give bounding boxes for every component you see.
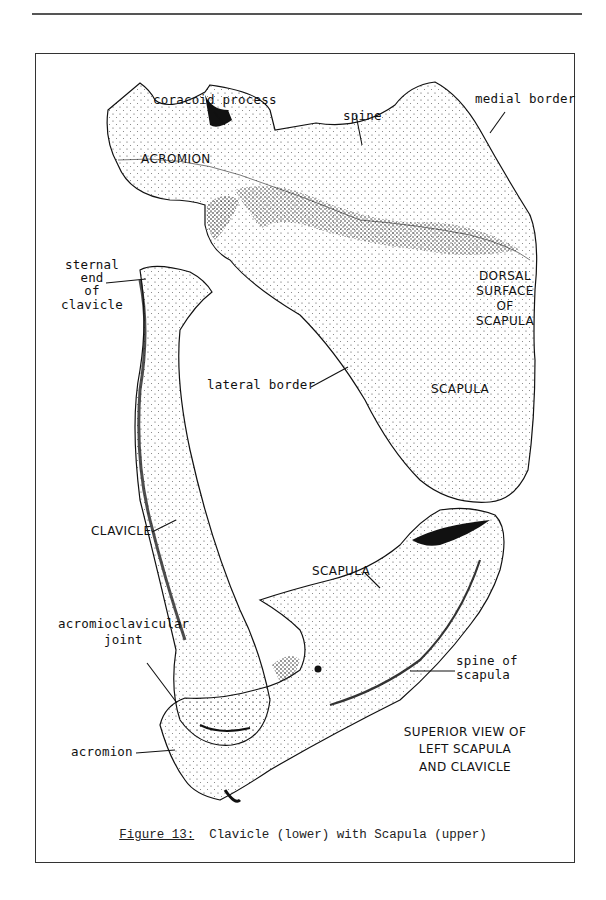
label-dorsal-line2: SURFACE <box>465 284 545 298</box>
label-acromion-upper: ACROMION <box>141 152 211 166</box>
label-sternal-end-line4: clavicle <box>57 298 127 312</box>
label-spine: spine <box>343 109 382 123</box>
label-scapula-upper: SCAPULA <box>431 382 489 396</box>
label-acromioclavicular-line1: acromioclavicular <box>58 617 189 631</box>
figure-number: Figure 13: <box>119 828 194 842</box>
label-dorsal-line3: OF <box>465 299 545 313</box>
figure-caption-text: Clavicle (lower) with Scapula (upper) <box>209 828 487 842</box>
label-scapula-lower: SCAPULA <box>312 564 370 578</box>
label-lateral-border: lateral border <box>207 378 315 392</box>
label-spine-of-scapula-line2: scapula <box>456 668 510 682</box>
label-acromion-lower: acromion <box>71 745 133 759</box>
label-sternal-end-line3: of <box>57 284 127 298</box>
label-clavicle: CLAVICLE <box>91 524 151 538</box>
label-acromioclavicular-line2: joint <box>104 633 143 647</box>
view-title-line2: LEFT SCAPULA <box>390 742 540 756</box>
figure-caption: Figure 13: Clavicle (lower) with Scapula… <box>0 828 606 842</box>
label-spine-of-scapula-line1: spine of <box>456 654 518 668</box>
label-dorsal-line1: DORSAL <box>465 269 545 283</box>
view-title-line3: AND CLAVICLE <box>390 760 540 774</box>
label-coracoid-process: coracoid process <box>153 93 277 107</box>
label-medial-border: medial border <box>475 92 575 106</box>
view-title-line1: SUPERIOR VIEW OF <box>390 725 540 739</box>
label-dorsal-line4: SCAPULA <box>465 314 545 328</box>
